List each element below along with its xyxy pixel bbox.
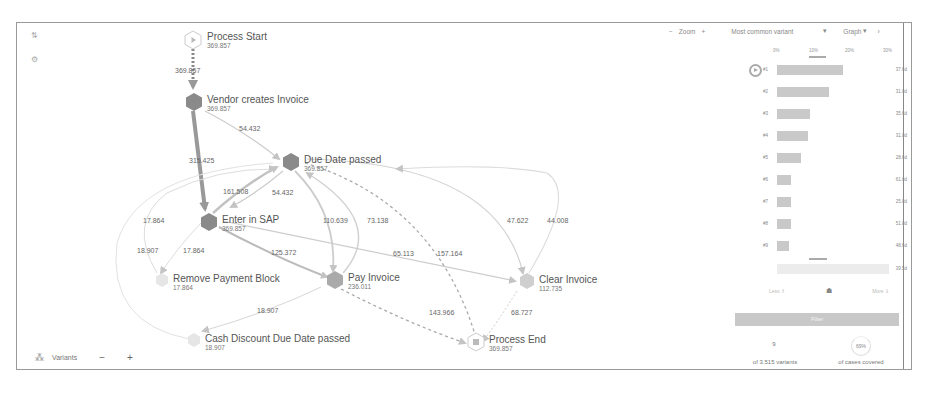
variant-row[interactable]: #5 28.6d: [729, 153, 911, 163]
edge-label: 68.727: [511, 309, 533, 316]
node-process-end-icon[interactable]: [468, 333, 484, 351]
node-count-process-start: 369.857: [207, 42, 231, 49]
variants-plus-button[interactable]: +: [127, 352, 133, 363]
zoom-in-button[interactable]: +: [701, 28, 705, 35]
variant-row-remaining[interactable]: 39.5d: [729, 264, 911, 274]
edge-label: 157.164: [437, 250, 462, 257]
variant-row[interactable]: #7 25.0d: [729, 197, 911, 207]
edge-label: 18.907: [137, 247, 159, 254]
process-graph-canvas[interactable]: ⇅ ⚙: [17, 23, 729, 369]
variant-bar: [777, 153, 801, 163]
divider-handle[interactable]: [809, 258, 827, 260]
edge-label: 315.425: [189, 157, 214, 164]
variant-bar: [777, 175, 791, 185]
edge-vendor-due: [205, 111, 279, 159]
variant-row[interactable]: #6 61.0d: [729, 175, 911, 185]
node-vendor-creates-invoice-icon[interactable]: [186, 93, 202, 111]
node-count-remove-block: 17.864: [173, 284, 193, 291]
zoom-out-button[interactable]: −: [669, 28, 673, 35]
node-enter-in-sap-icon[interactable]: [201, 213, 217, 231]
panel-scrollbar[interactable]: [903, 23, 907, 369]
variant-bar: [777, 264, 889, 274]
process-explorer-frame: ⇅ ⚙: [16, 22, 912, 370]
node-pay-invoice-icon[interactable]: [327, 271, 343, 289]
variant-select[interactable]: Most common variant: [731, 28, 793, 35]
edge-label: 110.639: [323, 217, 348, 224]
variant-row[interactable]: #4 31.0d: [729, 131, 911, 141]
edge-label: 18.907: [257, 307, 279, 314]
node-cash-discount-icon[interactable]: [188, 333, 200, 347]
view-select[interactable]: Graph: [843, 28, 861, 35]
node-remove-payment-block-icon[interactable]: [156, 273, 168, 287]
variants-count: 9: [759, 341, 789, 347]
node-label-vendor: Vendor creates Invoice: [207, 95, 309, 105]
variants-minus-button[interactable]: −: [99, 352, 105, 363]
cases-covered-ring: 69%: [851, 336, 871, 356]
edge-label: 47.622: [507, 217, 529, 224]
less-more-controls: Less ⇑ ☗ More ⇓: [769, 287, 889, 295]
edge-label: 369.857: [175, 67, 200, 74]
variant-row[interactable]: #2 31.0d: [729, 87, 911, 97]
cases-covered-label: of cases covered: [825, 359, 897, 365]
edge-label: 54.432: [272, 189, 294, 196]
node-count-process-end: 369.857: [489, 345, 513, 352]
variant-row[interactable]: #9 48.6d: [729, 241, 911, 251]
variant-bar: [777, 241, 789, 251]
variant-bar: [777, 87, 829, 97]
node-count-pay-invoice: 236.011: [348, 283, 371, 290]
axis-tick: 0%: [773, 48, 780, 53]
variant-rank: #2: [763, 89, 768, 94]
variants-toggle-icon[interactable]: ☗: [826, 287, 832, 295]
node-label-process-start: Process Start: [207, 32, 267, 42]
collapse-panel-button[interactable]: ›: [877, 28, 879, 35]
play-icon[interactable]: [749, 64, 762, 77]
variant-row[interactable]: #1 37.6d: [729, 65, 911, 75]
edge-label: 17.864: [183, 247, 205, 254]
edge-label: 44.008: [547, 217, 569, 224]
node-label-pay-invoice: Pay Invoice: [348, 273, 400, 283]
variant-row[interactable]: #3 35.6d: [729, 109, 911, 119]
variants-panel: − Zoom + Most common variant ▾ Graph ▾ ›…: [729, 23, 911, 369]
axis-slider-handle[interactable]: [809, 56, 826, 58]
node-label-process-end: Process End: [489, 335, 546, 345]
node-count-enter-sap: 369.857: [222, 225, 246, 232]
node-process-start-icon[interactable]: [185, 31, 201, 49]
variant-row[interactable]: #8 51.0d: [729, 219, 911, 229]
less-icon: ⇑: [781, 288, 785, 294]
edge-label: 161.508: [223, 188, 248, 195]
variant-select-caret-icon[interactable]: ▾: [823, 27, 827, 35]
filter-button[interactable]: Filter: [735, 313, 899, 326]
edge-label: 65.113: [393, 250, 414, 257]
node-label-due-date: Due Date passed: [304, 155, 381, 165]
node-label-remove-block: Remove Payment Block: [173, 274, 280, 284]
edge-label: 54.432: [239, 125, 261, 132]
node-label-enter-sap: Enter in SAP: [222, 215, 279, 225]
node-due-date-passed-icon[interactable]: [283, 153, 299, 171]
variant-rank: #9: [763, 243, 768, 248]
more-button[interactable]: More ⇓: [872, 288, 889, 294]
variant-rank: #6: [763, 177, 768, 182]
edge-label: 17.864: [143, 217, 165, 224]
edge-label: 143.966: [429, 309, 454, 316]
variant-bar: [777, 131, 808, 141]
view-select-caret-icon[interactable]: ▾: [863, 27, 867, 35]
node-count-vendor: 369.857: [207, 105, 231, 112]
node-label-cash-discount: Cash Discount Due Date passed: [205, 334, 350, 344]
variant-rank: #7: [763, 199, 768, 204]
node-count-due-date: 369.857: [304, 165, 328, 172]
axis-tick: 10%: [809, 48, 818, 53]
variant-rank: #5: [763, 155, 768, 160]
less-button[interactable]: Less ⇑: [769, 288, 785, 294]
panel-toolbar: − Zoom + Most common variant ▾ Graph ▾ ›: [669, 27, 909, 35]
variant-rank: #3: [763, 111, 768, 116]
zoom-label: Zoom: [679, 28, 696, 35]
edge-pay-end: [341, 289, 465, 343]
variant-bar: [777, 65, 843, 75]
variant-rank: #1: [763, 67, 768, 72]
node-count-clear-invoice: 112.735: [539, 285, 562, 292]
node-label-clear-invoice: Clear Invoice: [539, 275, 597, 285]
node-clear-invoice-icon[interactable]: [520, 273, 534, 289]
variant-bar: [777, 197, 791, 207]
variant-bar: [777, 219, 791, 229]
variants-bottom-bar: ⁂ Variants − +: [35, 352, 133, 363]
